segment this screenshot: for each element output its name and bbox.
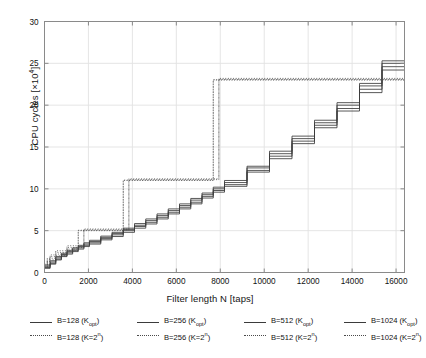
legend-column: B=128 (Kopt)B=128 (K=2n) [30, 316, 134, 342]
series-line [45, 42, 405, 267]
legend-column: B=256 (Kopt)B=256 (K=2n) [137, 316, 241, 342]
x-axis-label-text: Filter length N [taps] [166, 293, 253, 304]
legend-item-label: B=1024 (K=2n) [371, 329, 421, 343]
y-axis-label-text: CPU cycles [×104] [29, 67, 40, 146]
legend-line-sample [30, 335, 52, 337]
legend-line-sample [30, 322, 52, 324]
x-tick-label: 12000 [297, 277, 320, 286]
series-line [45, 78, 405, 264]
x-tick-label: 14000 [341, 277, 364, 286]
y-tick-label: 5 [34, 227, 39, 236]
legend-line-sample [244, 322, 266, 324]
legend-line-sample [137, 335, 159, 337]
series-line [45, 79, 405, 265]
y-tick-label: 0 [34, 269, 39, 278]
legend-item-label: B=256 (K=2n) [164, 329, 210, 343]
legend-line-sample [244, 335, 266, 337]
x-tick-label: 10000 [253, 277, 276, 286]
legend-item-label: B=512 (K=2n) [271, 329, 317, 343]
legend-line-sample [137, 322, 159, 324]
legend-item-label: B=256 (Kopt) [164, 316, 206, 329]
x-axis-label: Filter length N [taps] [0, 293, 420, 304]
x-tick-label: 16000 [385, 277, 408, 286]
legend-line-sample [344, 322, 366, 324]
chart-legend: B=128 (Kopt)B=128 (K=2n)B=256 (Kopt)B=25… [0, 316, 420, 350]
x-tick-label: 0 [42, 277, 47, 286]
y-axis-label: CPU cycles [×104] [28, 46, 40, 166]
x-tick-label: 6000 [167, 277, 186, 286]
series-line [45, 43, 405, 267]
legend-item[interactable]: B=1024 (Kopt) [344, 316, 426, 329]
legend-item-label: B=1024 (Kopt) [371, 316, 417, 329]
legend-column: B=1024 (Kopt)B=1024 (K=2n) [344, 316, 426, 342]
legend-line-sample [344, 335, 366, 337]
legend-item[interactable]: B=512 (K=2n) [244, 329, 348, 342]
legend-item[interactable]: B=256 (K=2n) [137, 329, 241, 342]
x-tick-label: 8000 [211, 277, 230, 286]
x-tick-label: 4000 [123, 277, 142, 286]
legend-item[interactable]: B=1024 (K=2n) [344, 329, 426, 342]
legend-item-label: B=128 (Kopt) [57, 316, 99, 329]
series-line [45, 80, 405, 267]
legend-item[interactable]: B=256 (Kopt) [137, 316, 241, 329]
legend-column: B=512 (Kopt)B=512 (K=2n) [244, 316, 348, 342]
x-tick-label: 2000 [79, 277, 98, 286]
y-tick-label: 10 [29, 185, 39, 194]
legend-item[interactable]: B=512 (Kopt) [244, 316, 348, 329]
y-tick-label: 30 [29, 18, 39, 27]
legend-item-label: B=128 (K=2n) [57, 329, 103, 343]
legend-item[interactable]: B=128 (Kopt) [30, 316, 134, 329]
legend-item[interactable]: B=128 (K=2n) [30, 329, 134, 342]
legend-item-label: B=512 (Kopt) [271, 316, 313, 329]
